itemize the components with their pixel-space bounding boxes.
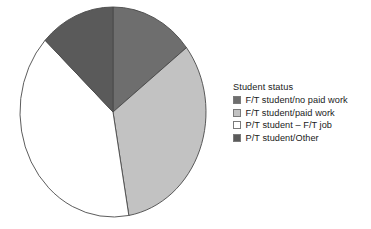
legend-title: Student status xyxy=(233,82,371,92)
legend-item-pt-ft-job[interactable]: P/T student – F/T job xyxy=(233,120,371,130)
legend-item-ft-no-paid-work[interactable]: F/T student/no paid work xyxy=(233,95,371,105)
pie-slice-group xyxy=(20,7,206,217)
legend-item-ft-paid-work[interactable]: F/T student/paid work xyxy=(233,108,371,118)
legend-item-label: P/T student – F/T job xyxy=(246,120,333,130)
legend: Student status F/T student/no paid work … xyxy=(233,82,371,146)
legend-item-label: F/T student/paid work xyxy=(246,108,335,118)
legend-swatch-icon xyxy=(233,134,241,142)
legend-swatch-icon xyxy=(233,96,241,104)
legend-swatch-icon xyxy=(233,109,241,117)
legend-swatch-icon xyxy=(233,121,241,129)
pie-chart-figure: Student status F/T student/no paid work … xyxy=(0,0,371,229)
legend-item-label: F/T student/no paid work xyxy=(246,95,348,105)
legend-item-pt-other[interactable]: P/T student/Other xyxy=(233,133,371,143)
legend-item-label: P/T student/Other xyxy=(246,133,319,143)
